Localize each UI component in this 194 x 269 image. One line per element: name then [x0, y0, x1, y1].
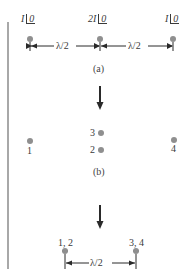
amplitude-label: I — [21, 13, 24, 24]
transform-arrow-1 — [97, 86, 104, 110]
element-34-label: 3, 4 — [129, 238, 144, 248]
element-right-current: I0 — [165, 14, 179, 24]
panel-a-dimension — [30, 42, 173, 51]
spacing-label-2: λ/2 — [128, 41, 141, 51]
element-2-label: 2 — [90, 145, 95, 155]
spacing-label: λ/2 — [90, 258, 103, 268]
element-3-label: 3 — [90, 128, 95, 138]
amplitude-label: 2I — [88, 13, 96, 24]
element-12-label: 1, 2 — [58, 238, 73, 248]
antenna-element-3 — [98, 130, 104, 136]
antenna-element-right — [170, 36, 176, 42]
element-1-label: 1 — [27, 146, 32, 156]
element-4-label: 4 — [171, 144, 176, 154]
antenna-element-center — [97, 36, 103, 42]
phase-angle: 0 — [98, 14, 107, 24]
antenna-element-1 — [27, 138, 33, 144]
caption-a: (a) — [93, 64, 104, 74]
antenna-element-left — [27, 36, 33, 42]
element-left-current: I0 — [21, 14, 35, 24]
spacing-label-1: λ/2 — [56, 41, 69, 51]
amplitude-label: I — [165, 13, 168, 24]
caption-b: (b) — [93, 167, 105, 177]
phase-angle: 0 — [26, 14, 35, 24]
antenna-element-2 — [98, 147, 104, 153]
transform-arrow-2 — [97, 205, 104, 229]
phase-angle: 0 — [170, 14, 179, 24]
antenna-element-1-2 — [62, 248, 68, 254]
element-center-current: 2I0 — [88, 14, 107, 24]
antenna-element-3-4 — [133, 248, 139, 254]
